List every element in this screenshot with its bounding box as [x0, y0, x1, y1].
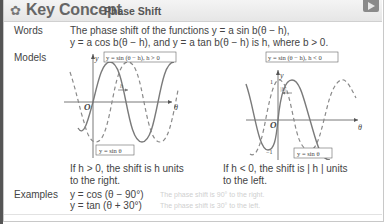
words-line-1: The phase shift of the functions y = a s… — [70, 25, 290, 36]
examples-label: Examples — [14, 189, 58, 200]
base-function-label: y = sin θ — [99, 147, 122, 154]
base-function-label-right: y = sin θ — [297, 150, 320, 157]
section-title: Phase Shift — [104, 5, 161, 17]
right-caption-line-2: to the left. — [223, 175, 267, 186]
left-sine-graph: h O θ y y = sin (θ − h), h > 0 y = sin θ — [60, 50, 190, 160]
tick-1-label: 1 — [270, 79, 273, 85]
tick-neg1-label: −1 — [266, 149, 272, 155]
example-equation-1: y = cos (θ − 90°) — [70, 189, 143, 200]
right-caption-line-1: If h < 0, the shift is | h | units — [223, 163, 347, 174]
models-label: Models — [14, 52, 46, 63]
header-bar: ✿ Key Concept Phase Shift — [4, 0, 382, 22]
shift-h-label: h — [120, 83, 123, 89]
words-label: Words — [14, 25, 43, 36]
shift-abs-h-label: |h| — [280, 86, 287, 92]
example-equation-2: y = tan (θ + 30°) — [70, 200, 142, 211]
y-axis-label-right: y — [279, 71, 284, 80]
right-sine-graph: |h| O θ y 1 −1 y = sin (θ − h), h < 0 y … — [240, 50, 370, 160]
origin-label-right: O — [270, 120, 277, 130]
bottom-divider — [4, 214, 382, 215]
shifted-function-label: y = sin (θ − h), h > 0 — [106, 54, 160, 62]
left-caption-line-2: to the right. — [70, 175, 120, 186]
shifted-function-label-right: y = sin (θ − h), h < 0 — [268, 54, 322, 62]
theta-axis-label: θ — [174, 103, 178, 112]
play-icon[interactable] — [363, 0, 379, 12]
example-note-2: The phase shift is 30° to the left. — [160, 202, 260, 209]
y-axis-label: y — [94, 54, 99, 63]
theta-axis-label-right: θ — [358, 123, 362, 132]
gear-icon: ✿ — [10, 3, 21, 18]
left-caption-line-1: If h > 0, the shift is h units — [70, 163, 184, 174]
words-line-2: y = a cos b(θ − h), and y = a tan b(θ − … — [70, 37, 328, 48]
origin-label: O — [84, 102, 91, 112]
example-note-1: The phase shift is 90° to the right. — [160, 191, 264, 198]
